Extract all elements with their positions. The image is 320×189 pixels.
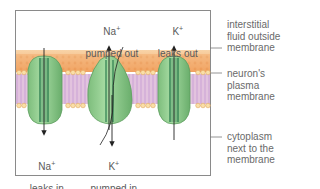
charge: + [116,25,120,32]
ion: Na [103,26,116,37]
label-interstitial-fluid: interstitial fluid outside membrane [227,19,280,54]
charge: + [179,25,183,32]
na-leak-channel [28,48,62,133]
action: leaks out [158,48,198,59]
action: pumped out [86,48,139,59]
label-na-pumped-out: Na+ pumped out [80,15,138,59]
label-plasma-membrane: neuron's plasma membrane [227,68,275,103]
label-k-leaks-out: K+ leaks out [150,15,200,59]
label-na-leaks-in: Na+ leaks in [22,150,66,189]
label-cytoplasm: cytoplasm next to the membrane [227,131,275,166]
charge: + [115,160,119,167]
action: leaks in [30,183,64,189]
ion: Na [38,161,51,172]
charge: + [51,160,55,167]
action: pumped in [90,183,137,189]
label-k-pumped-in: K+ pumped in [82,150,140,189]
